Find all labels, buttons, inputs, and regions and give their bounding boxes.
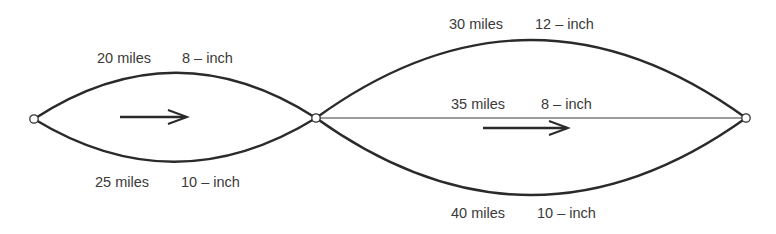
pipe-a-lower xyxy=(34,118,316,162)
flow-arrow-a xyxy=(120,110,187,124)
pipe-b-middle-length: 35 miles xyxy=(451,96,505,112)
node-sink xyxy=(742,114,750,122)
flow-arrow-b xyxy=(483,121,568,135)
pipe-b-lower xyxy=(316,118,746,195)
pipe-b-lower-length: 40 miles xyxy=(451,205,505,221)
pipe-a-lower-length: 25 miles xyxy=(95,174,149,190)
pipe-b-upper xyxy=(316,40,746,118)
segment-b xyxy=(316,40,746,195)
pipe-b-upper-diameter: 12 – inch xyxy=(535,16,594,32)
pipeline-diagram: 20 miles 8 – inch 25 miles 10 – inch 30 … xyxy=(0,0,776,234)
pipe-a-lower-diameter: 10 – inch xyxy=(181,174,240,190)
pipe-b-lower-diameter: 10 – inch xyxy=(537,205,596,221)
pipe-a-upper-diameter: 8 – inch xyxy=(182,50,233,66)
node-source xyxy=(30,115,38,123)
node-junction xyxy=(312,114,320,122)
pipe-b-upper-length: 30 miles xyxy=(449,16,503,32)
pipe-b-middle-diameter: 8 – inch xyxy=(541,96,592,112)
pipe-a-upper-length: 20 miles xyxy=(97,50,151,66)
